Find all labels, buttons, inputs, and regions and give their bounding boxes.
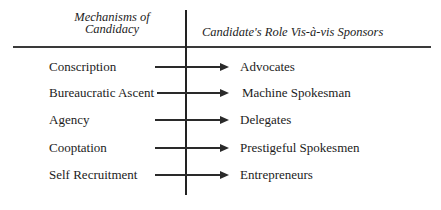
arrowhead-icon bbox=[220, 89, 229, 97]
arrowhead-icon bbox=[220, 144, 229, 152]
arrowhead-icon bbox=[220, 63, 229, 71]
mechanism-label: Cooptation bbox=[49, 140, 107, 156]
mechanism-label: Agency bbox=[49, 112, 89, 128]
mapping-row-self-recruitment: Self Recruitment Entrepreneurs bbox=[0, 167, 441, 183]
arrowhead-icon bbox=[220, 116, 229, 124]
right-arrow-icon bbox=[155, 174, 221, 176]
right-arrow-icon bbox=[157, 92, 221, 94]
header-left-line-2: Candidacy bbox=[48, 23, 176, 35]
header-rule bbox=[13, 46, 431, 48]
mechanism-label: Conscription bbox=[49, 59, 116, 75]
right-arrow-icon bbox=[155, 66, 221, 68]
mechanism-label: Self Recruitment bbox=[49, 167, 137, 183]
role-label: Entrepreneurs bbox=[240, 167, 313, 183]
header-mechanisms-of-candidacy: Mechanisms of Candidacy bbox=[48, 11, 176, 35]
mapping-row-bureaucratic-ascent: Bureaucratic Ascent Machine Spokesman bbox=[0, 85, 441, 101]
role-label: Prestigeful Spokesmen bbox=[240, 140, 360, 156]
mechanism-label: Bureaucratic Ascent bbox=[49, 85, 154, 101]
right-arrow-icon bbox=[155, 147, 221, 149]
role-label: Machine Spokesman bbox=[242, 85, 351, 101]
mapping-row-agency: Agency Delegates bbox=[0, 112, 441, 128]
role-label: Advocates bbox=[240, 59, 295, 75]
arrowhead-icon bbox=[220, 171, 229, 179]
role-label: Delegates bbox=[240, 112, 291, 128]
mapping-row-cooptation: Cooptation Prestigeful Spokesmen bbox=[0, 140, 441, 156]
header-candidate-role: Candidate's Role Vis-à-vis Sponsors bbox=[202, 25, 383, 39]
mapping-row-conscription: Conscription Advocates bbox=[0, 59, 441, 75]
right-arrow-icon bbox=[155, 119, 221, 121]
